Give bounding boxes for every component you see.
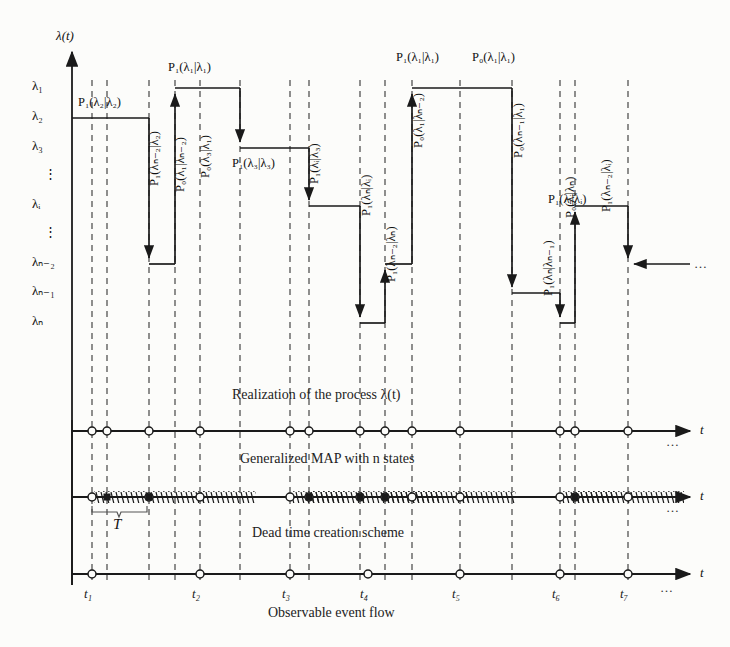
ellipsis-realization: … — [666, 434, 680, 450]
lost-event-marker-6 — [572, 494, 579, 501]
y-tick-label-6: ⋮ — [44, 224, 57, 240]
transition-probability-8: P₁(λₙ|λᵢ) — [358, 175, 374, 216]
event-marker-generalized-map-4 — [286, 493, 294, 501]
time-tick-t₂: t₂ — [192, 586, 200, 602]
event-marker-realization-7 — [356, 427, 364, 435]
transition-probability-4: P₁(λ₁|λ₁) — [168, 60, 211, 75]
event-marker-realization-11 — [556, 427, 564, 435]
event-marker-generalized-map-1 — [88, 493, 96, 501]
event-marker-generalized-map-10 — [556, 493, 564, 501]
event-marker-observable-flow-3 — [286, 570, 294, 578]
ellipsis-observable: … — [660, 580, 674, 596]
transition-probability-17: P₁(λₙ₋₂|λᵢ) — [598, 159, 614, 212]
lambda-axis-label: λ(t) — [56, 28, 74, 44]
event-marker-observable-flow-7 — [624, 570, 632, 578]
time-tick-t₅: t₅ — [452, 586, 460, 602]
event-marker-realization-12 — [571, 427, 579, 435]
event-marker-observable-flow-4 — [364, 570, 372, 578]
event-marker-realization-1 — [88, 427, 96, 435]
lost-event-marker-1 — [104, 494, 111, 501]
y-tick-label-3: λ₃ — [32, 138, 43, 154]
event-marker-observable-flow-5 — [456, 570, 464, 578]
event-marker-realization-8 — [381, 427, 389, 435]
t-axis-label-realization: t — [700, 422, 704, 438]
transition-probability-14: P₁(λₙ|λₙ₋₁) — [540, 240, 556, 296]
t-axis-label-observable: t — [700, 565, 704, 581]
dead-time-band-1 — [94, 491, 148, 503]
caption-1: Realization of the process λ(t) — [232, 387, 401, 403]
transition-probability-13: P₀(λₙ₋₁|λ₁) — [510, 103, 526, 158]
dead-time-duration-label: T — [113, 516, 121, 533]
transition-probability-11: P₁(λ₁|λ₁) — [396, 50, 439, 65]
y-tick-label-1: λ₁ — [32, 78, 43, 94]
lost-event-marker-4 — [357, 494, 364, 501]
event-marker-realization-10 — [456, 427, 464, 435]
transition-probability-2: P₁(λₙ₋₂|λ₂) — [146, 131, 162, 186]
y-tick-label-7: λₙ₋₂ — [32, 254, 55, 270]
y-tick-label-2: λ₂ — [32, 108, 43, 124]
transition-probability-10: P₀(λ₁|λₙ₋₂) — [410, 93, 426, 148]
transition-probability-1: P₁(λ₂|λ₂) — [78, 95, 121, 110]
dead-time-band-3 — [202, 491, 256, 503]
transition-probability-9: P₁(λₙ₋₂|λₙ) — [383, 226, 399, 282]
event-marker-realization-2 — [103, 427, 111, 435]
event-marker-generalized-map-9 — [456, 493, 464, 501]
lost-event-marker-3 — [306, 494, 313, 501]
y-tick-label-4: ⋮ — [44, 166, 57, 182]
transition-probability-5: P₀(λ₃|λ₁) — [198, 135, 213, 178]
dead-time-band-9 — [462, 491, 516, 503]
time-tick-t₆: t₆ — [552, 586, 560, 602]
y-tick-label-9: λₙ — [32, 313, 43, 329]
event-marker-realization-5 — [286, 427, 294, 435]
lost-event-marker-5 — [382, 494, 389, 501]
transition-probability-12: P₀(λ₁|λ₁) — [472, 50, 515, 65]
transition-probability-16: P₁(λᵢ|λᵢ) — [548, 192, 586, 207]
event-marker-observable-flow-6 — [556, 570, 564, 578]
event-marker-generalized-map-12 — [624, 493, 632, 501]
time-tick-t₄: t₄ — [360, 586, 368, 602]
dead-time-band-11 — [577, 491, 631, 503]
time-tick-t₇: t₇ — [620, 586, 628, 602]
event-marker-observable-flow-1 — [88, 570, 96, 578]
caption-2: Generalized MAP with n states — [240, 451, 414, 467]
lost-event-marker-2 — [146, 494, 153, 501]
event-marker-realization-9 — [408, 427, 416, 435]
time-tick-t₁: t₁ — [84, 586, 92, 602]
event-marker-generalized-map-3 — [196, 493, 204, 501]
transition-probability-6: P₁(λ₃|λ₃) — [232, 156, 275, 171]
y-tick-label-5: λᵢ — [32, 196, 40, 212]
event-marker-realization-3 — [145, 427, 153, 435]
y-tick-label-8: λₙ₋₁ — [32, 283, 55, 299]
ellipsis-map: … — [666, 500, 680, 516]
event-marker-realization-13 — [624, 427, 632, 435]
caption-4: Observable event flow — [268, 605, 395, 621]
event-marker-observable-flow-2 — [196, 570, 204, 578]
transition-probability-7: P₁(λᵢ|λ₃) — [307, 143, 322, 184]
event-marker-generalized-map-8 — [408, 493, 416, 501]
caption-3: Dead time creation scheme — [252, 525, 404, 541]
event-marker-realization-4 — [196, 427, 204, 435]
ellipsis-step: … — [694, 256, 708, 272]
transition-probability-3: P₀(λ₁|λₙ₋₂) — [172, 137, 188, 192]
time-tick-t₃: t₃ — [282, 586, 290, 602]
t-axis-label-map: t — [700, 488, 704, 504]
figure-canvas: λ(t) λ₁λ₂λ₃⋮λᵢ⋮λₙ₋₂λₙ₋₁λₙ P₁(λ₂|λ₂)P₁(λₙ… — [0, 0, 730, 647]
event-marker-realization-6 — [305, 427, 313, 435]
